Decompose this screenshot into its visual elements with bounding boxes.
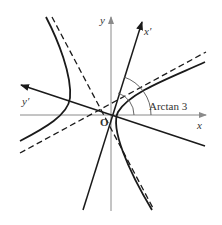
angle-arc bbox=[118, 93, 134, 115]
origin-label: O bbox=[100, 116, 109, 128]
hyperbola-left-branch bbox=[20, 17, 70, 141]
x-axis-label: x bbox=[196, 119, 202, 131]
y-prime-axis-label: y′ bbox=[21, 95, 30, 107]
angle-arc-outer bbox=[124, 77, 151, 115]
x-prime-axis-label: x′ bbox=[143, 25, 152, 37]
hyperbola-right-branch bbox=[116, 62, 205, 210]
asymptote-steep bbox=[52, 17, 154, 210]
angle-label: Arctan 3 bbox=[149, 100, 188, 112]
y-axis-label: y bbox=[99, 14, 105, 26]
hyperbola-diagram: x y x′ y′ O Arctan 3 bbox=[0, 0, 222, 225]
